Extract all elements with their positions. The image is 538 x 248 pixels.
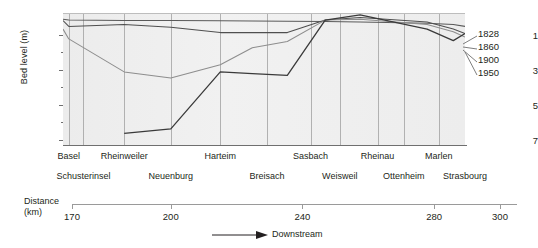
downstream-label: Downstream — [272, 229, 323, 239]
distance-tick-280 — [434, 204, 435, 209]
distance-tick-300 — [500, 204, 501, 209]
y-tick-label-7: 7 — [482, 136, 538, 146]
y-axis-title: Bed level (m) — [19, 0, 29, 117]
distance-tick-200 — [171, 204, 172, 209]
place-label-rheinau: Rheinau — [361, 152, 395, 161]
downstream-arrow-icon — [212, 230, 270, 242]
place-label-ottenheim: Ottenheim — [383, 172, 425, 181]
distance-axis-line — [72, 204, 517, 205]
legend-item-1860[interactable]: 1860 — [478, 42, 499, 52]
distance-tick-label-240: 240 — [295, 212, 311, 222]
legend-item-1900[interactable]: 1900 — [478, 55, 499, 65]
distance-tick-label-280: 280 — [426, 212, 442, 222]
legend-item-1828[interactable]: 1828 — [478, 29, 499, 39]
distance-tick-240 — [302, 204, 303, 209]
place-label-weisweil: Weisweil — [322, 172, 357, 181]
distance-tick-label-200: 200 — [163, 212, 179, 222]
y-tick-label-5: 5 — [482, 101, 538, 111]
distance-title-line1: Distance — [24, 196, 59, 207]
series-canvas — [63, 13, 465, 145]
place-label-rheinweiler: Rheinweiler — [101, 152, 148, 161]
plot-top-border — [63, 13, 465, 14]
legend-item-1950[interactable]: 1950 — [478, 68, 499, 78]
x-axis-line — [60, 144, 470, 148]
distance-title-line2: (km) — [24, 207, 59, 218]
distance-axis-title: Distance (km) — [24, 196, 59, 217]
plot-area — [63, 13, 465, 145]
place-label-marlen: Marlen — [425, 152, 453, 161]
place-label-breisach: Breisach — [249, 172, 284, 181]
place-label-neuenburg: Neuenburg — [149, 172, 194, 181]
distance-tick-label-170: 170 — [64, 212, 80, 222]
series-line-1950 — [124, 15, 465, 134]
place-label-schusterinsel: Schusterinsel — [56, 172, 110, 181]
distance-tick-170 — [72, 204, 73, 209]
place-label-strasbourg: Strasbourg — [443, 172, 487, 181]
distance-tick-label-300: 300 — [492, 212, 508, 222]
place-label-basel: Basel — [58, 152, 81, 161]
chart-figure: Bed level (m) 1 3 5 7 1828 1860 1900 195… — [0, 0, 538, 248]
place-label-harteim: Harteim — [205, 152, 237, 161]
place-label-sasbach: Sasbach — [293, 152, 328, 161]
